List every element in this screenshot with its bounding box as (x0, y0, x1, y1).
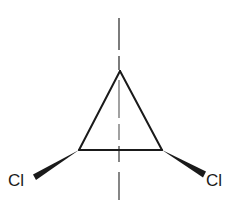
bond-top-right (120, 71, 162, 150)
atom-label-cl-right: Cl (206, 172, 222, 189)
wedge-bond-left (33, 150, 79, 180)
wedge-bond-right (162, 150, 206, 178)
cyclopropane-ring (79, 71, 162, 150)
bond-top-left (79, 71, 120, 150)
diagram-canvas: Cl Cl (0, 0, 243, 203)
atom-label-cl-left: Cl (8, 172, 24, 189)
